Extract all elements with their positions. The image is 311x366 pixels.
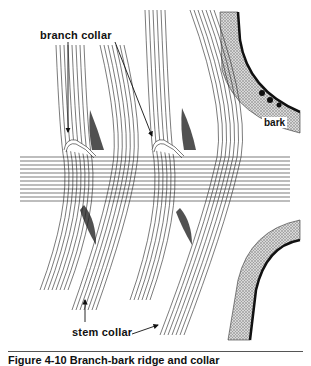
caption-divider xyxy=(8,351,303,352)
branch-collar-label: branch collar xyxy=(40,29,112,41)
figure-caption: Figure 4-10 Branch-bark ridge and collar xyxy=(8,354,220,366)
label-arrows xyxy=(68,42,158,334)
stem-fibers-right xyxy=(130,10,243,335)
bark-upper xyxy=(220,12,300,133)
bark-label: bark xyxy=(262,117,287,128)
stem-fibers-left xyxy=(40,45,138,310)
stem-collar-label: stem collar xyxy=(72,326,132,338)
bark-lower xyxy=(228,220,300,340)
